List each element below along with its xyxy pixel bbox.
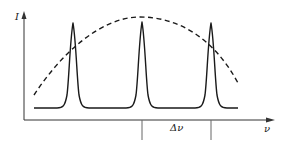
mode-comb-curve xyxy=(34,22,238,108)
mode-comb-diagram: I ν Δν xyxy=(0,0,285,147)
y-axis-label: I xyxy=(14,11,20,22)
spacing-marker: Δν xyxy=(142,120,211,140)
y-axis-arrow-icon xyxy=(22,11,27,19)
x-axis: ν xyxy=(24,118,275,135)
x-axis-label: ν xyxy=(264,123,270,134)
x-axis-arrow-icon xyxy=(266,118,275,123)
y-axis: I xyxy=(14,11,27,120)
spacing-label: Δν xyxy=(169,122,183,133)
